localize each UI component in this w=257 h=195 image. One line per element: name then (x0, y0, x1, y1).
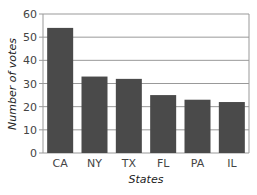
bar-ca (47, 28, 73, 153)
bar-il (219, 102, 245, 153)
x-axis-label: States (129, 173, 164, 186)
bar-ny (82, 77, 108, 153)
bar-tx (116, 79, 142, 153)
bar-fl (150, 95, 176, 153)
y-tick-label: 0 (30, 147, 37, 160)
x-tick-label: FL (157, 157, 170, 170)
y-tick-label: 10 (23, 124, 37, 137)
x-axis-ticks: CANYTXFLPAIL (53, 157, 238, 170)
bar-pa (185, 100, 211, 153)
y-tick-label: 50 (23, 31, 37, 44)
bars (47, 28, 245, 153)
y-axis-label: Number of votes (6, 38, 19, 130)
x-tick-label: NY (87, 157, 102, 170)
y-tick-label: 60 (23, 8, 37, 21)
y-tick-label: 40 (23, 54, 37, 67)
x-tick-label: TX (121, 157, 137, 170)
y-tick-label: 30 (23, 78, 37, 91)
x-tick-label: CA (53, 157, 69, 170)
bar-chart: 0102030405060 CANYTXFLPAIL States Number… (0, 0, 257, 195)
y-tick-label: 20 (23, 101, 37, 114)
y-axis-ticks: 0102030405060 (23, 8, 43, 160)
x-tick-label: PA (191, 157, 205, 170)
gridlines (43, 14, 249, 153)
x-tick-label: IL (227, 157, 237, 170)
